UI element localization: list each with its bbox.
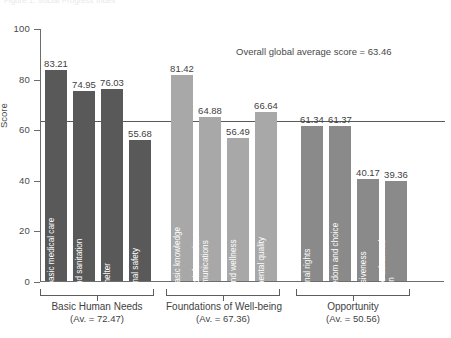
y-axis-tick <box>34 181 40 182</box>
plot-area: Nutrition and basic medical care83.21Wat… <box>40 29 444 282</box>
bar-value-label: 81.42 <box>166 63 198 74</box>
y-axis-tick <box>34 80 40 81</box>
bar-value-label: 55.68 <box>124 128 156 139</box>
y-axis-tick-label: 20 <box>6 225 30 236</box>
bar-value-label: 39.36 <box>380 169 412 180</box>
y-axis-tick <box>34 29 40 30</box>
bar: Access to basic knowledge <box>171 75 193 281</box>
group-average: (Av. = 72.47) <box>40 313 154 325</box>
bar-category-label: Shelter <box>103 263 112 289</box>
bar: Access to advancededucation <box>385 181 407 281</box>
y-axis-tick-label: 60 <box>6 124 30 135</box>
bar: Personal freedom and choice <box>329 126 351 281</box>
bar-value-label: 66.64 <box>250 100 282 111</box>
bar-value-label: 56.49 <box>222 126 254 137</box>
bar: Water and sanitation <box>73 91 95 281</box>
group-name: Foundations of Well-being <box>166 301 282 312</box>
bar-value-label: 61.37 <box>324 114 356 125</box>
bar: Access to informationand communications <box>199 117 221 281</box>
bar: Nutrition and basic medical care <box>45 70 67 281</box>
bracket-line <box>166 289 280 296</box>
y-axis-tick-label: 80 <box>6 74 30 85</box>
y-axis-tick-label: 0 <box>6 276 30 287</box>
group-average: (Av. = 50.56) <box>296 313 410 325</box>
y-axis-tick <box>34 282 40 283</box>
plot-inner: Nutrition and basic medical care83.21Wat… <box>41 29 444 281</box>
group-caption: Foundations of Well-being(Av. = 67.36) <box>166 301 280 325</box>
bracket-line <box>40 289 154 296</box>
y-axis-tick <box>34 130 40 131</box>
group-caption: Basic Human Needs(Av. = 72.47) <box>40 301 154 325</box>
bar-value-label: 83.21 <box>40 58 72 69</box>
y-axis-tick-label: 40 <box>6 175 30 186</box>
chart-figure: Figure 1. Social Progress Index Score Nu… <box>0 0 451 338</box>
bracket-line <box>296 289 410 296</box>
cut-off-header-strip: Figure 1. Social Progress Index <box>0 0 451 9</box>
average-annotation: Overall global average score = 63.46 <box>236 46 392 57</box>
bar: Personal rights <box>301 126 323 281</box>
bar: Personal safety <box>129 140 151 281</box>
bar: Shelter <box>101 89 123 281</box>
bar: Environmental quality <box>255 112 277 281</box>
ghost-header-text: Figure 1. Social Progress Index <box>4 0 116 5</box>
bar-value-label: 64.88 <box>194 105 226 116</box>
group-name: Opportunity <box>327 301 379 312</box>
group-name: Basic Human Needs <box>51 301 142 312</box>
group-average: (Av. = 67.36) <box>166 313 280 325</box>
bar: Inclusiveness <box>357 179 379 281</box>
y-axis-tick-label: 100 <box>6 23 30 34</box>
bar-value-label: 76.03 <box>96 77 128 88</box>
group-caption: Opportunity(Av. = 50.56) <box>296 301 410 325</box>
bar: Health and wellness <box>227 138 249 281</box>
y-axis-tick <box>34 231 40 232</box>
